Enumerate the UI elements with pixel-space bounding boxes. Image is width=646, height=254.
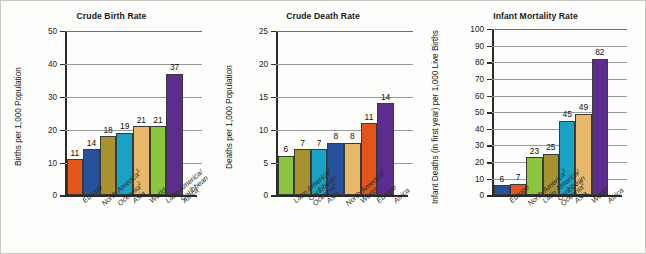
bar-value-label: 8: [327, 131, 344, 141]
bar-value-label: 8: [344, 131, 361, 141]
x-axis-labels: EuropeNorth America1Latin America/Caribb…: [492, 199, 626, 254]
bar[interactable]: [592, 59, 608, 195]
y-axis-tick-label: 70: [475, 74, 484, 83]
plot-area: 0510152025677881114: [276, 31, 408, 197]
bar-item[interactable]: 37: [166, 31, 183, 195]
bar-value-label: 11: [361, 112, 378, 122]
y-axis-tick-label: 10: [475, 174, 484, 183]
y-axis-tick-label: 60: [475, 91, 484, 100]
x-axis-labels: EuropeNorth America1Oceania2AsiaWorldLat…: [65, 199, 201, 254]
bar[interactable]: [278, 156, 295, 195]
y-axis-tick: [487, 29, 492, 30]
bar-value-label: 14: [377, 92, 394, 102]
chart-title: Crude Birth Rate: [5, 11, 218, 21]
bar-value-label: 11: [67, 148, 84, 158]
y-axis-tick-label: 5: [263, 158, 268, 167]
bar-value-label: 49: [575, 102, 591, 112]
bar-item[interactable]: 8: [344, 31, 361, 195]
bar-value-label: 21: [133, 115, 150, 125]
x-axis-labels: Latin America/CaribbeanOceania2AsiaNorth…: [276, 199, 412, 254]
y-axis-tick: [60, 163, 65, 164]
y-axis-tick: [487, 112, 492, 113]
y-axis-tick: [271, 97, 276, 98]
figure-panel: Crude Birth Rate Births per 1,000 Popula…: [0, 0, 646, 254]
y-axis-tick-label: 40: [48, 59, 57, 68]
bar-value-label: 45: [559, 109, 575, 119]
y-axis-tick: [60, 31, 65, 32]
y-axis-tick-label: 100: [470, 25, 484, 34]
chart-title: Crude Death Rate: [218, 11, 428, 21]
bar-value-label: 21: [150, 115, 167, 125]
y-axis-label: Births per 1,000 Population: [14, 41, 23, 193]
y-axis-tick-label: 20: [48, 125, 57, 134]
y-axis-tick-label: 80: [475, 58, 484, 67]
bar[interactable]: [150, 126, 167, 195]
chart-crude-death-rate: Crude Death Rate Deaths per 1,000 Popula…: [218, 5, 428, 251]
y-axis-tick-label: 50: [48, 27, 57, 36]
chart-infant-mortality-rate: Infant Mortality Rate Infant Deaths (in …: [428, 5, 643, 251]
bar-value-label: 19: [116, 121, 133, 131]
chart-title: Infant Mortality Rate: [428, 11, 643, 21]
y-axis-tick-label: 40: [475, 124, 484, 133]
y-axis-tick: [60, 64, 65, 65]
bar[interactable]: [494, 185, 510, 195]
bar-value-label: 6: [494, 174, 510, 184]
y-axis-tick-label: 20: [475, 158, 484, 167]
y-axis-tick-label: 30: [48, 92, 57, 101]
y-axis-tick-label: 10: [259, 125, 268, 134]
bar-item[interactable]: 23: [526, 29, 542, 195]
bar-series: 677881114: [278, 31, 408, 195]
bar-item[interactable]: 6: [278, 31, 295, 195]
y-axis-tick: [487, 62, 492, 63]
y-axis-tick-label: 10: [48, 158, 57, 167]
bar-value-label: 14: [83, 138, 100, 148]
y-axis-tick: [487, 79, 492, 80]
bar-item[interactable]: 7: [294, 31, 311, 195]
y-axis-tick: [487, 96, 492, 97]
bar-value-label: 23: [526, 146, 542, 156]
y-axis-tick: [487, 46, 492, 47]
y-axis-tick-label: 15: [259, 92, 268, 101]
bar-item[interactable]: 18: [100, 31, 117, 195]
bar-item[interactable]: 21: [150, 31, 167, 195]
y-axis-tick: [487, 179, 492, 180]
bar-value-label: 82: [592, 47, 608, 57]
bar-item[interactable]: 6: [494, 29, 510, 195]
y-axis-tick-label: 25: [259, 27, 268, 36]
y-axis-tick-label: 20: [259, 59, 268, 68]
bar-value-label: 6: [278, 144, 295, 154]
y-axis-tick-label: 0: [263, 191, 268, 200]
y-axis-tick: [487, 145, 492, 146]
y-axis-tick: [60, 130, 65, 131]
bar-value-label: 25: [543, 142, 559, 152]
y-axis-tick: [60, 97, 65, 98]
y-axis-tick: [487, 129, 492, 130]
bar[interactable]: [166, 74, 183, 196]
y-axis-label: Infant Deaths (in first year) per 1,000 …: [431, 27, 440, 207]
y-axis-tick: [271, 163, 276, 164]
y-axis-tick: [487, 162, 492, 163]
bar-item[interactable]: 82: [592, 29, 608, 195]
bar-value-label: 7: [510, 172, 526, 182]
y-axis-tick-label: 50: [475, 108, 484, 117]
bar-item[interactable]: 7: [510, 29, 526, 195]
bar-value-label: 7: [294, 138, 311, 148]
chart-grid: Crude Birth Rate Births per 1,000 Popula…: [5, 5, 643, 251]
bar[interactable]: [67, 159, 84, 195]
y-axis-tick-label: 0: [479, 191, 484, 200]
y-axis-tick: [271, 130, 276, 131]
chart-crude-birth-rate: Crude Birth Rate Births per 1,000 Popula…: [5, 5, 218, 251]
bar-item[interactable]: 11: [67, 31, 84, 195]
bar-value-label: 7: [311, 138, 328, 148]
bar-value-label: 18: [100, 125, 117, 135]
y-axis-tick-label: 90: [475, 41, 484, 50]
y-axis-label: Deaths per 1,000 Population: [225, 41, 234, 193]
y-axis-tick-label: 30: [475, 141, 484, 150]
y-axis-tick: [271, 64, 276, 65]
bar-item[interactable]: 14: [83, 31, 100, 195]
y-axis-tick-label: 0: [52, 191, 57, 200]
y-axis-tick: [271, 31, 276, 32]
bar-value-label: 37: [166, 62, 183, 72]
